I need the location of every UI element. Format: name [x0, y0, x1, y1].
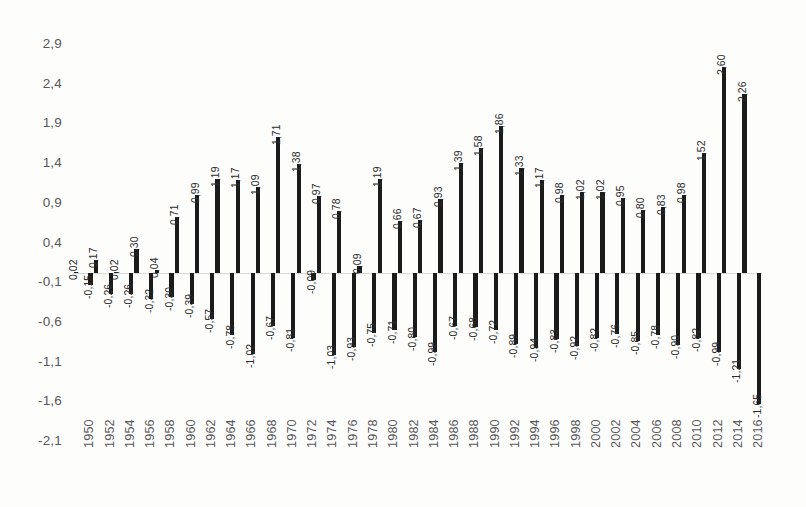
x-axis-tick: 1996 — [548, 419, 562, 448]
x-axis-tick: 1972 — [305, 419, 319, 448]
y-axis-tick: 1,4 — [43, 155, 62, 170]
x-axis-tick: 2010 — [690, 419, 704, 448]
x-axis-tick: 2016 — [751, 419, 765, 448]
x-axis-tick: 1990 — [488, 419, 502, 448]
y-axis-tick: -1,1 — [38, 353, 62, 368]
x-axis-tick: 1964 — [224, 419, 238, 448]
x-axis-tick: 1978 — [366, 419, 380, 448]
y-axis-tick: 2,9 — [43, 36, 62, 51]
x-axis-tick: 1958 — [163, 419, 177, 448]
x-axis-tick: 1992 — [508, 419, 522, 448]
x-axis-tick: 1986 — [447, 419, 461, 448]
y-axis-tick: -1,6 — [38, 393, 62, 408]
x-axis-tick: 1956 — [143, 419, 157, 448]
x-axis-tick: 1962 — [204, 419, 218, 448]
x-axis-tick: 1988 — [467, 419, 481, 448]
x-axis-tick: 1998 — [569, 419, 583, 448]
x-axis-tick: 1968 — [265, 419, 279, 448]
x-axis-tick: 2008 — [670, 419, 684, 448]
x-axis-tick: 1960 — [184, 419, 198, 448]
x-axis-tick: 1952 — [103, 419, 117, 448]
x-axis-tick: 2000 — [589, 419, 603, 448]
x-axis-tick: 1980 — [386, 419, 400, 448]
x-axis-tick: 1984 — [427, 419, 441, 448]
y-axis-tick: -0,1 — [38, 274, 62, 289]
y-axis: 2,92,41,91,40,90,4-0,1-0,6-1,1-1,6-2,1 — [0, 0, 70, 507]
x-axis-tick: 2004 — [629, 419, 643, 448]
x-axis-tick: 1954 — [123, 419, 137, 448]
x-axis-tick: 1994 — [528, 419, 542, 448]
x-axis-tick: 2014 — [731, 419, 745, 448]
x-axis-tick: 1974 — [325, 419, 339, 448]
x-axis-tick: 2006 — [650, 419, 664, 448]
y-axis-tick: 1,9 — [43, 115, 62, 130]
y-axis-tick: -0,6 — [38, 313, 62, 328]
bar-chart: 2,92,41,91,40,90,4-0,1-0,6-1,1-1,6-2,1 0… — [0, 0, 806, 507]
x-axis: 1950195219541956195819601962196419661968… — [73, 0, 762, 507]
x-axis-tick: 2002 — [609, 419, 623, 448]
x-axis-tick: 1976 — [346, 419, 360, 448]
y-axis-tick: 0,4 — [43, 234, 62, 249]
x-axis-tick: 1982 — [407, 419, 421, 448]
x-axis-tick: 1970 — [285, 419, 299, 448]
x-axis-tick: 2012 — [711, 419, 725, 448]
y-axis-tick: 0,9 — [43, 194, 62, 209]
y-axis-tick: 2,4 — [43, 75, 62, 90]
y-axis-tick: -2,1 — [38, 433, 62, 448]
x-axis-tick: 1966 — [244, 419, 258, 448]
x-axis-tick: 1950 — [82, 419, 96, 448]
